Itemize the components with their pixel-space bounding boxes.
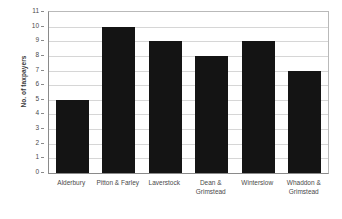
x-tick-label: Pitton & Farley bbox=[95, 178, 142, 187]
bar bbox=[195, 56, 228, 173]
y-tick-label: 10 bbox=[32, 22, 39, 29]
y-tick-mark bbox=[41, 143, 44, 144]
x-tick-label: Laverstock bbox=[141, 178, 188, 187]
y-tick-label: 11 bbox=[32, 8, 39, 15]
x-tick-label: Winterslow bbox=[234, 178, 281, 187]
plot-area bbox=[48, 11, 329, 174]
bar bbox=[149, 41, 182, 173]
bar bbox=[242, 41, 275, 173]
y-tick-mark bbox=[41, 99, 44, 100]
y-tick-mark bbox=[41, 26, 44, 27]
y-tick-label: 2 bbox=[35, 139, 39, 146]
bar bbox=[288, 71, 321, 173]
y-tick-mark bbox=[41, 11, 44, 12]
x-axis-tick-labels: AlderburyPitton & FarleyLaverstockDean &… bbox=[48, 178, 329, 214]
y-tick-mark bbox=[41, 128, 44, 129]
y-tick-mark bbox=[41, 40, 44, 41]
y-axis-tick-labels: 01234567891011 bbox=[0, 11, 44, 174]
bars-layer bbox=[49, 12, 328, 173]
y-tick-label: 7 bbox=[35, 66, 39, 73]
y-tick-mark bbox=[41, 55, 44, 56]
bar-chart-figure: No. of taxpayers 01234567891011 Alderbur… bbox=[0, 0, 342, 219]
x-tick-label: Whaddon & Grimstead bbox=[281, 178, 328, 197]
y-tick-label: 1 bbox=[35, 154, 39, 161]
y-tick-label: 6 bbox=[35, 81, 39, 88]
y-tick-mark bbox=[41, 157, 44, 158]
bar bbox=[102, 27, 135, 173]
y-tick-mark bbox=[41, 172, 44, 173]
y-tick-label: 3 bbox=[35, 125, 39, 132]
y-tick-label: 8 bbox=[35, 52, 39, 59]
y-tick-mark bbox=[41, 113, 44, 114]
y-tick-label: 9 bbox=[35, 37, 39, 44]
y-tick-mark bbox=[41, 70, 44, 71]
y-tick-mark bbox=[41, 84, 44, 85]
y-tick-label: 5 bbox=[35, 96, 39, 103]
bar bbox=[56, 100, 89, 173]
y-tick-label: 4 bbox=[35, 110, 39, 117]
x-tick-label: Alderbury bbox=[48, 178, 95, 187]
x-tick-label: Dean & Grimstead bbox=[188, 178, 235, 197]
y-tick-label: 0 bbox=[35, 169, 39, 176]
